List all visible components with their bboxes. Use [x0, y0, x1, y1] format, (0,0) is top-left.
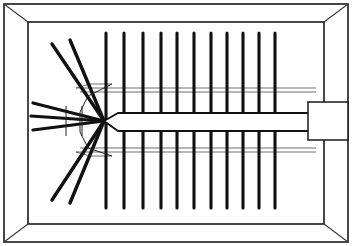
technical-drawing [0, 0, 352, 246]
figure-canvas [0, 0, 352, 246]
center-spine-bar [104, 113, 312, 131]
right-connector-block [308, 102, 348, 140]
